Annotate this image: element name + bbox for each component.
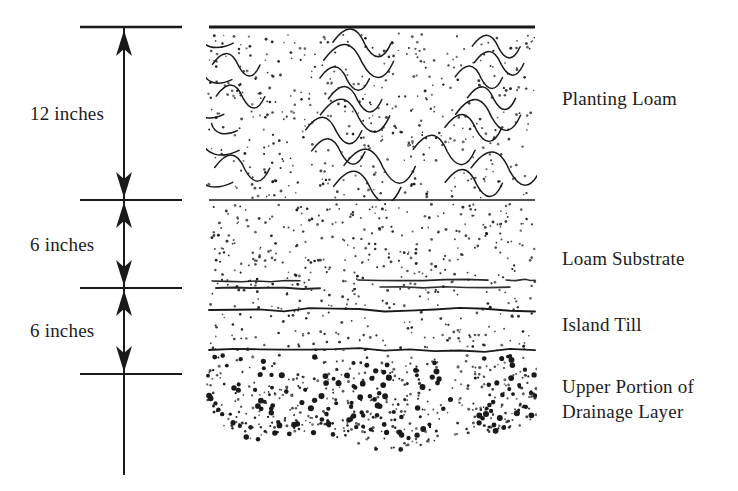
layer-label-loam-substrate: Loam Substrate	[562, 246, 685, 271]
layer-label-island-till: Island Till	[562, 312, 642, 337]
dimension-label-6-inches-lower: 6 inches	[30, 320, 94, 342]
layer-loam-substrate-texture	[211, 203, 537, 288]
layer-drainage-texture	[206, 353, 538, 451]
dimension-label-6-inches-upper: 6 inches	[30, 234, 94, 256]
dimension-label-12-inches: 12 inches	[30, 103, 104, 125]
soil-profile-diagram: 12 inches 6 inches 6 inches Planting Loa…	[0, 0, 738, 491]
soil-column	[194, 27, 595, 452]
layer-label-drainage-line-2: Drainage Layer	[562, 401, 683, 422]
layer-label-planting-loam: Planting Loam	[562, 86, 677, 111]
dimension-tick-marks	[80, 27, 182, 374]
layer-island-till-texture	[209, 281, 535, 353]
layer-label-drainage-line-1: Upper Portion of	[562, 376, 694, 397]
layer-label-drainage-layer: Upper Portion of Drainage Layer	[562, 374, 694, 424]
dimension-line-group	[80, 27, 182, 475]
layer-planting-loam-texture	[194, 29, 595, 203]
